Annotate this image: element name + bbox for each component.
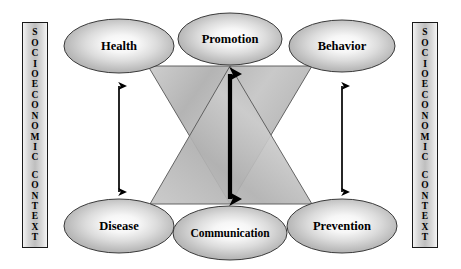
socioeconomic-context-bar-right: S O C I O E C O N O M I C C O N T E X T (412, 22, 438, 248)
context-letter: E (32, 211, 38, 221)
node-behavior[interactable]: Behavior (289, 20, 395, 72)
context-letter: C (32, 152, 39, 162)
diagram-canvas: S O C I O E C O N O M I C C O N T E X T … (0, 0, 461, 269)
context-letter: O (421, 38, 428, 48)
context-letter: X (32, 222, 39, 232)
node-label-behavior: Behavior (318, 39, 367, 54)
context-letter: T (422, 201, 428, 211)
node-promotion[interactable]: Promotion (178, 13, 282, 65)
node-label-promotion: Promotion (202, 32, 259, 47)
node-label-disease: Disease (99, 219, 139, 234)
context-letter: I (423, 142, 427, 152)
context-letter: C (422, 90, 429, 100)
context-letter: M (421, 132, 430, 142)
context-letter: N (422, 191, 429, 201)
context-letter: O (421, 69, 428, 79)
context-letter: M (31, 132, 40, 142)
node-label-prevention: Prevention (313, 219, 371, 234)
node-label-communication: Communication (190, 227, 269, 239)
context-letter: O (31, 100, 38, 110)
context-letter: C (422, 48, 429, 58)
context-letter: O (421, 180, 428, 190)
context-letter: C (32, 170, 39, 180)
context-letter-stack-right: S O C I O E C O N O M I C C O N T E X T (421, 27, 430, 242)
context-letter: C (422, 152, 429, 162)
context-letter: E (422, 79, 428, 89)
context-letter: I (33, 142, 37, 152)
node-health[interactable]: Health (64, 19, 174, 73)
context-letter: E (422, 211, 428, 221)
context-letter: O (31, 38, 38, 48)
node-disease[interactable]: Disease (64, 199, 174, 253)
context-letter: C (32, 48, 39, 58)
context-letter: I (423, 59, 427, 69)
arrow-group (119, 74, 342, 199)
context-letter: N (32, 191, 39, 201)
context-letter: O (421, 100, 428, 110)
context-letter: O (31, 121, 38, 131)
node-communication[interactable]: Communication (173, 206, 287, 260)
context-letter: N (422, 111, 429, 121)
context-letter: T (32, 232, 38, 242)
context-letter: S (32, 27, 37, 37)
context-letter: T (32, 201, 38, 211)
context-letter: E (32, 79, 38, 89)
node-label-health: Health (101, 39, 137, 54)
context-letter: O (31, 180, 38, 190)
node-prevention[interactable]: Prevention (287, 199, 397, 253)
socioeconomic-context-bar-left: S O C I O E C O N O M I C C O N T E X T (22, 22, 48, 248)
context-letter: X (422, 222, 429, 232)
context-letter-stack-left: S O C I O E C O N O M I C C O N T E X T (31, 27, 40, 242)
context-letter: S (422, 27, 427, 37)
context-letter: N (32, 111, 39, 121)
context-letter: O (31, 69, 38, 79)
context-letter: I (33, 59, 37, 69)
context-letter: C (32, 90, 39, 100)
context-letter: T (422, 232, 428, 242)
context-letter: C (422, 170, 429, 180)
context-letter: O (421, 121, 428, 131)
